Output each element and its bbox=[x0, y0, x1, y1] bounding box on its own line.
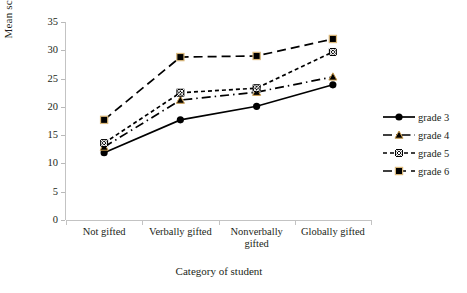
line-chart-figure: Mean score 05101520253035 Not giftedVerb… bbox=[0, 0, 467, 293]
x-axis-tick-mark bbox=[371, 220, 372, 225]
data-point-circled-x bbox=[395, 149, 403, 157]
legend-symbol-square-icon bbox=[382, 164, 416, 178]
legend-label: grade 5 bbox=[416, 148, 449, 159]
legend-label: grade 3 bbox=[416, 112, 449, 123]
series-line-grade-6 bbox=[104, 39, 333, 120]
data-point-circled-x bbox=[176, 89, 184, 97]
legend-label: grade 4 bbox=[416, 130, 449, 141]
data-point-circle bbox=[253, 103, 260, 110]
series-canvas bbox=[66, 22, 371, 220]
y-axis-tick-label: 35 bbox=[30, 17, 58, 27]
legend-symbol-triangle-icon bbox=[382, 128, 416, 142]
data-point-circle bbox=[395, 113, 402, 120]
data-point-square bbox=[253, 52, 260, 59]
y-axis-title: Mean score bbox=[2, 0, 14, 72]
x-axis-title: Category of student bbox=[66, 265, 372, 277]
x-axis-tick-label: Nonverballygifted bbox=[219, 226, 295, 250]
legend-symbol-circle-icon bbox=[382, 110, 416, 124]
legend-item-grade-3[interactable]: grade 3 bbox=[382, 108, 464, 126]
y-axis-tick-label: 25 bbox=[30, 74, 58, 84]
y-axis-tick-label: 5 bbox=[30, 187, 58, 197]
plot-area bbox=[66, 22, 371, 220]
legend-item-grade-6[interactable]: grade 6 bbox=[382, 162, 464, 180]
data-point-circled-x bbox=[253, 84, 261, 92]
legend-label: grade 6 bbox=[416, 166, 449, 177]
x-axis-tick-label: Verbally gifted bbox=[142, 226, 218, 238]
data-point-triangle bbox=[176, 96, 184, 103]
y-axis-tick-label: 0 bbox=[30, 215, 58, 225]
x-axis-tick-mark bbox=[219, 220, 220, 225]
legend-symbol-circled-x-icon bbox=[382, 146, 416, 160]
x-axis-tick-label: Not gifted bbox=[66, 226, 142, 238]
data-point-square bbox=[177, 53, 184, 60]
y-axis-tick-label: 10 bbox=[30, 158, 58, 168]
x-axis-tick-mark bbox=[142, 220, 143, 225]
data-point-square bbox=[395, 167, 402, 174]
legend-item-grade-5[interactable]: grade 5 bbox=[382, 144, 464, 162]
chart-legend: grade 3grade 4grade 5grade 6 bbox=[382, 108, 464, 180]
y-axis-tick-label: 15 bbox=[30, 130, 58, 140]
data-point-square bbox=[101, 116, 108, 123]
x-axis-tick-label: Globally gifted bbox=[295, 226, 371, 238]
data-point-circled-x bbox=[329, 48, 337, 56]
series-line-grade-5 bbox=[104, 52, 333, 143]
data-point-circle bbox=[329, 81, 336, 88]
data-point-circle bbox=[177, 116, 184, 123]
y-axis-tick-mark bbox=[61, 220, 65, 221]
x-axis-tick-mark bbox=[295, 220, 296, 225]
y-axis-tick-label: 30 bbox=[30, 45, 58, 55]
data-point-triangle bbox=[329, 73, 337, 80]
series-line-grade-3 bbox=[104, 85, 333, 153]
data-point-square bbox=[329, 35, 336, 42]
legend-item-grade-4[interactable]: grade 4 bbox=[382, 126, 464, 144]
data-point-circled-x bbox=[100, 139, 108, 147]
y-axis-tick-label: 20 bbox=[30, 102, 58, 112]
series-line-grade-4 bbox=[104, 77, 333, 147]
x-axis-tick-mark bbox=[66, 220, 67, 225]
